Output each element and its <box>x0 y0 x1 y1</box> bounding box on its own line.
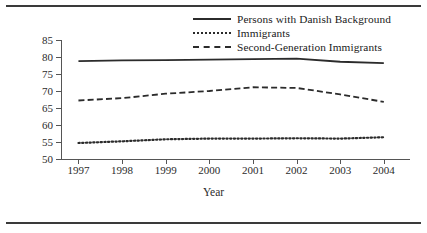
series-line-immigrants <box>78 137 383 143</box>
series-line-persons-with-danish-background <box>78 59 383 63</box>
series-line-second-generation-immigrants <box>78 87 383 102</box>
figure-container: Persons with Danish Background Immigrant… <box>0 0 427 233</box>
x-axis-title: Year <box>0 186 427 198</box>
chart-plot-area <box>0 0 427 233</box>
